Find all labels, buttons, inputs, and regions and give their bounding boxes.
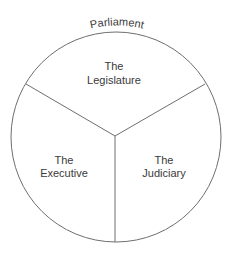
legislature-label-line2: Legislature: [87, 74, 141, 86]
parliament-diagram: Parliament The Legislature The Executive…: [0, 0, 234, 259]
title-parliament: Parliament: [89, 15, 145, 30]
executive-label-line1: The: [55, 154, 74, 166]
executive-label-line2: Executive: [40, 167, 88, 179]
legislature-label-line1: The: [105, 60, 124, 72]
judiciary-label-line1: The: [155, 154, 174, 166]
divider-right: [115, 84, 205, 136]
judiciary-label-line2: Judiciary: [142, 167, 186, 179]
divider-left: [26, 84, 115, 136]
